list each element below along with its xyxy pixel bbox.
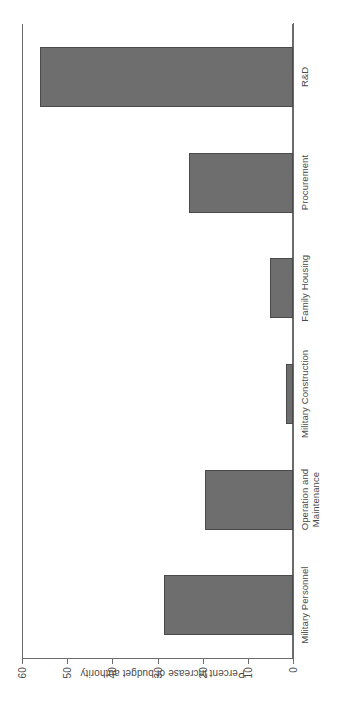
category-label-military-personnel: Military Personnel [299, 560, 341, 650]
tick-mark-50 [67, 659, 68, 664]
value-axis-title: Percent increase of budget authority [23, 668, 303, 679]
category-label-operation-and-maintenance: Operation and Maintenance [299, 455, 341, 545]
category-label-line2: Maintenance [310, 472, 321, 528]
category-label-procurement: Procurement [299, 138, 341, 228]
category-label-military-construction: Military Construction [299, 349, 341, 439]
category-axis-baseline [293, 23, 294, 659]
bar-slot-family-housing [22, 243, 293, 333]
tick-mark-0 [293, 659, 294, 664]
tick-mark-40 [112, 659, 113, 664]
bar-family-housing[interactable] [270, 258, 293, 318]
category-label-line1: Operation and [299, 469, 310, 531]
bar-slot-procurement [22, 138, 293, 228]
category-label-rd: R&D [299, 32, 341, 122]
bar-chart-figure: 0 10 20 30 40 50 60 [0, 0, 343, 707]
bar-slot-military-personnel [22, 560, 293, 650]
bar-procurement[interactable] [189, 153, 293, 213]
category-label-family-housing: Family Housing [299, 243, 341, 333]
tick-mark-30 [158, 659, 159, 664]
tick-mark-20 [203, 659, 204, 664]
bar-rd[interactable] [40, 47, 293, 107]
bar-military-construction[interactable] [286, 364, 293, 424]
tick-mark-10 [248, 659, 249, 664]
bar-series [22, 24, 293, 658]
category-axis-labels: Military Personnel Operation and Mainten… [299, 24, 341, 658]
bar-slot-rd [22, 32, 293, 122]
rotated-figure-wrapper: 0 10 20 30 40 50 60 [0, 0, 343, 707]
bar-slot-military-construction [22, 349, 293, 439]
tick-mark-60 [22, 659, 23, 664]
bar-military-personnel[interactable] [164, 575, 293, 635]
bar-slot-operation-and-maintenance [22, 455, 293, 545]
bar-operation-and-maintenance[interactable] [205, 470, 293, 530]
